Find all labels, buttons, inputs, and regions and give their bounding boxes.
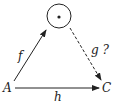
node-label-a: A xyxy=(2,81,12,95)
top-node xyxy=(47,4,71,28)
arrow-label-f: f xyxy=(17,49,25,63)
dot-icon xyxy=(57,15,60,18)
arrow-label-g: g ? xyxy=(91,43,109,57)
arrow-label-h: h xyxy=(54,90,62,103)
node-label-c: C xyxy=(102,81,111,95)
diagram-canvas: A C f g ? h xyxy=(0,0,117,103)
